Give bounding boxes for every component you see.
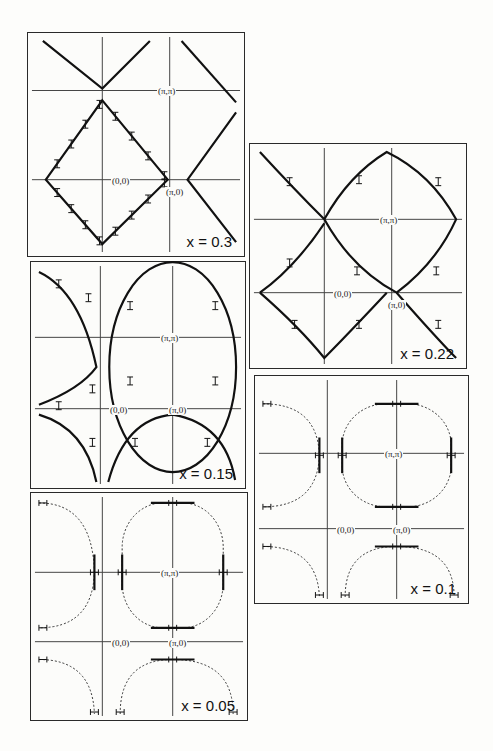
label-pi-0: (π,0)	[168, 405, 187, 415]
error-bar	[39, 657, 47, 663]
label-origin: (0,0)	[111, 638, 130, 648]
error-bar	[39, 500, 47, 506]
label-pi-pi: (π,π)	[384, 449, 403, 459]
error-bar	[435, 320, 441, 328]
label-pi-0: (π,0)	[392, 525, 411, 535]
doping-label: x = 0.22	[400, 345, 454, 362]
fermi-contour	[43, 41, 236, 244]
error-bar	[127, 377, 133, 385]
fermi-contour	[39, 503, 233, 714]
error-bar	[354, 267, 360, 275]
fermi-contour	[39, 262, 236, 482]
label-origin: (0,0)	[111, 176, 130, 186]
doping-label: x = 0.3	[187, 233, 232, 250]
error-bar	[263, 543, 271, 549]
doping-label: x = 0.1	[411, 580, 456, 597]
error-bar	[315, 592, 323, 598]
doping-label: x = 0.05	[181, 697, 235, 714]
error-bar	[263, 504, 271, 510]
error-bar	[433, 267, 439, 275]
error-bar	[39, 625, 47, 631]
error-bar	[85, 294, 91, 302]
error-bar	[89, 438, 95, 446]
label-pi-pi: (π,π)	[379, 215, 398, 225]
error-bar	[263, 401, 271, 407]
label-pi-0: (π,0)	[387, 300, 406, 310]
label-origin: (0,0)	[109, 405, 128, 415]
error-bar	[132, 438, 138, 446]
error-bar	[435, 178, 441, 186]
error-bar	[127, 302, 133, 310]
error-bar	[204, 438, 210, 446]
error-bar	[116, 709, 124, 715]
error-bar	[89, 385, 95, 393]
doping-label: x = 0.15	[179, 465, 233, 482]
fermi-panel-p1: (π,π)(0,0)(π,0)x = 0.3	[27, 32, 245, 257]
error-bar	[212, 377, 218, 385]
fermi-panel-p4: (π,π)(0,0)(π,0)x = 0.1	[254, 375, 469, 604]
error-bar	[341, 592, 349, 598]
label-origin: (0,0)	[336, 525, 355, 535]
label-pi-pi: (π,π)	[160, 333, 179, 343]
fermi-panel-p3: (π,π)(0,0)(π,0)x = 0.15	[30, 261, 246, 489]
error-bar	[212, 302, 218, 310]
fermi-contour	[263, 404, 454, 597]
label-pi-pi: (π,π)	[160, 568, 179, 578]
label-origin: (0,0)	[333, 289, 352, 299]
label-pi-0: (π,0)	[168, 638, 187, 648]
label-pi-0: (π,0)	[165, 187, 184, 197]
fermi-panel-p2: (π,π)(0,0)(π,0)x = 0.22	[249, 143, 467, 369]
fermi-panel-p5: (π,π)(0,0)(π,0)x = 0.05	[30, 492, 248, 721]
label-pi-pi: (π,π)	[157, 86, 176, 96]
